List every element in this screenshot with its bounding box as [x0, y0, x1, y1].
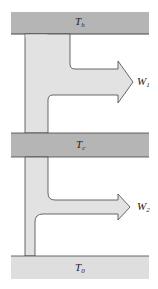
label-subscript: 2	[146, 206, 150, 214]
label-subscript: c	[82, 144, 85, 152]
label-symbol: W	[137, 200, 146, 212]
work-output-w1-label: W1	[137, 76, 150, 89]
heat-flow-upper	[25, 34, 133, 133]
work-output-w2-label: W2	[137, 201, 150, 214]
heat-flow-lower	[25, 157, 130, 256]
label-subscript: h	[81, 21, 85, 29]
label-symbol: W	[137, 75, 146, 87]
ambient-reservoir-label: T0	[75, 262, 85, 275]
hot-reservoir-label: Th	[75, 16, 85, 29]
cold-reservoir-label: Tc	[76, 139, 85, 152]
label-subscript: 0	[81, 267, 85, 275]
label-subscript: 1	[146, 81, 150, 89]
